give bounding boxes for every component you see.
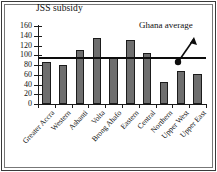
y-tick-label-text: 60 — [10, 71, 32, 79]
bar — [109, 57, 118, 104]
bar — [126, 40, 135, 104]
y-tick-label-text: 140 — [10, 32, 32, 40]
y-tick-mark — [34, 94, 42, 95]
y-tick-label: 100 — [10, 51, 32, 59]
bar — [42, 62, 51, 104]
bar — [193, 74, 202, 104]
y-tick-mark — [34, 85, 42, 86]
y-tick-mark — [34, 26, 42, 27]
y-tick-label: 160 — [10, 22, 32, 30]
bar — [177, 71, 186, 104]
y-tick-label-text: 0 — [10, 100, 32, 108]
y-tick-label: 120 — [10, 42, 32, 50]
y-tick-label-text: 40 — [10, 81, 32, 89]
x-tick-mark — [172, 104, 173, 108]
y-tick-label-text: 80 — [10, 61, 32, 69]
x-tick-mark — [105, 104, 106, 108]
x-tick-mark — [139, 104, 140, 108]
plot-area: 020406080100120140160 Ghana average Grea… — [0, 0, 217, 172]
y-tick-mark — [34, 36, 42, 37]
y-tick-label: 20 — [10, 90, 32, 98]
x-tick-mark — [72, 104, 73, 108]
x-tick-mark — [88, 104, 89, 108]
annotation-arrow-icon — [170, 36, 200, 64]
ghana-average-label: Ghana average — [139, 20, 193, 30]
y-tick-label-text: 20 — [10, 90, 32, 98]
y-tick-label: 140 — [10, 32, 32, 40]
y-tick-mark — [34, 65, 42, 66]
y-tick-label: 80 — [10, 61, 32, 69]
chart-figure: JSS subsidy 020406080100120140160 Ghana … — [0, 0, 217, 172]
y-tick-label-text: 160 — [10, 22, 32, 30]
x-tick-mark — [38, 104, 39, 108]
y-tick-mark — [34, 55, 42, 56]
y-tick-mark — [34, 46, 42, 47]
y-tick-label-text: 120 — [10, 42, 32, 50]
y-tick-label-text: 100 — [10, 51, 32, 59]
x-tick-mark — [55, 104, 56, 108]
x-tick-mark — [156, 104, 157, 108]
x-tick-mark — [122, 104, 123, 108]
bar — [143, 53, 152, 104]
x-tick-mark — [189, 104, 190, 108]
y-tick-mark — [34, 75, 42, 76]
bar — [160, 82, 169, 104]
x-tick-mark — [206, 104, 207, 108]
y-tick-label: 60 — [10, 71, 32, 79]
bar — [59, 65, 68, 104]
y-tick-label: 40 — [10, 81, 32, 89]
y-tick-label: 0 — [10, 100, 32, 108]
bar — [93, 38, 102, 104]
